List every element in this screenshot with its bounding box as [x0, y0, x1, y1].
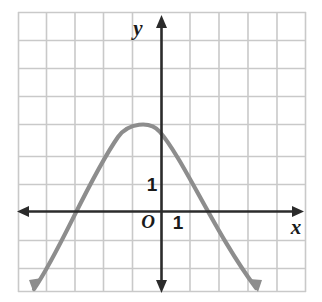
- x-axis-label: x: [290, 215, 302, 239]
- graph-canvas: y x O 1 1: [0, 0, 322, 302]
- origin-label: O: [141, 211, 155, 232]
- parabola-coordinate-graph: y x O 1 1: [0, 0, 322, 302]
- y-tick-label-one: 1: [147, 174, 158, 195]
- x-tick-label-one: 1: [173, 212, 184, 233]
